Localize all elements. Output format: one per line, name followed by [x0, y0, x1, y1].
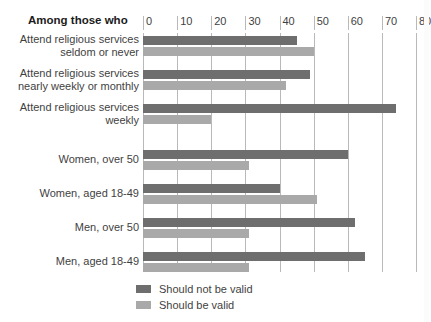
- category-label: Men, over 50: [3, 221, 139, 235]
- bar-should-not-be-valid: [143, 218, 355, 227]
- legend-swatch-icon: [136, 285, 151, 293]
- page-title: Among those who: [28, 14, 128, 26]
- category-label-line: Attend religious services: [3, 101, 139, 115]
- bar-should-be-valid: [143, 195, 317, 204]
- tick-label: 20: [214, 14, 226, 28]
- bar-should-not-be-valid: [143, 184, 280, 193]
- legend-item-should_be_valid[interactable]: Should be valid: [136, 298, 253, 312]
- tick-rule: [416, 16, 417, 30]
- tick-label: 70: [385, 14, 397, 28]
- category-label: Attend religious servicesnearly weekly o…: [3, 67, 139, 94]
- tick-label: 0: [146, 14, 152, 28]
- bar-should-be-valid: [143, 229, 249, 238]
- legend: Should not be validShould be valid: [136, 282, 253, 314]
- tick-label: 50: [317, 14, 329, 28]
- category-label-line: Attend religious services: [3, 67, 139, 81]
- category-label-line: weekly: [3, 114, 139, 128]
- legend-label: Should be valid: [159, 299, 234, 312]
- category-label-line: nearly weekly or monthly: [3, 80, 139, 94]
- category-label-line: Men, over 50: [3, 221, 139, 235]
- category-label-column: Attend religious servicesseldom or never…: [0, 33, 139, 272]
- tick-label: 40: [283, 14, 295, 28]
- category-label: Men, aged 18-49: [3, 255, 139, 269]
- plot-area: [143, 33, 416, 272]
- category-label: Women, aged 18-49: [3, 187, 139, 201]
- bar-should-be-valid: [143, 81, 286, 90]
- category-label-line: seldom or never: [3, 46, 139, 60]
- bar-should-not-be-valid: [143, 252, 365, 261]
- tick-rule: [143, 16, 144, 30]
- bar-should-not-be-valid: [143, 36, 297, 45]
- gridline-80: [416, 33, 417, 272]
- bar-should-be-valid: [143, 115, 211, 124]
- category-label-line: Men, aged 18-49: [3, 255, 139, 269]
- tick-rule: [314, 16, 315, 30]
- bar-should-not-be-valid: [143, 70, 310, 79]
- bar-should-be-valid: [143, 47, 314, 56]
- tick-label: 10: [180, 14, 192, 28]
- x-axis-tick-labels: 01020304050607080: [143, 14, 429, 30]
- category-label-line: Women, over 50: [3, 153, 139, 167]
- tick-rule: [177, 16, 178, 30]
- legend-label: Should not be valid: [159, 283, 253, 296]
- tick-label: 30: [248, 14, 260, 28]
- legend-swatch-icon: [136, 301, 151, 309]
- tick-rule: [211, 16, 212, 30]
- bar-should-be-valid: [143, 161, 249, 170]
- tick-rule: [382, 16, 383, 30]
- gridline-60: [348, 33, 349, 272]
- tick-rule: [348, 16, 349, 30]
- bar-should-be-valid: [143, 263, 249, 272]
- legend-item-should_not_be_valid[interactable]: Should not be valid: [136, 282, 253, 296]
- bar-should-not-be-valid: [143, 104, 396, 113]
- category-label-line: Women, aged 18-49: [3, 187, 139, 201]
- gridline-70: [382, 33, 383, 272]
- tick-rule: [280, 16, 281, 30]
- scan-edge-artifact: [424, 0, 429, 322]
- tick-label: 60: [351, 14, 363, 28]
- bar-should-not-be-valid: [143, 150, 348, 159]
- category-label: Women, over 50: [3, 153, 139, 167]
- category-label: Attend religious servicesseldom or never: [3, 33, 139, 60]
- category-label: Attend religious servicesweekly: [3, 101, 139, 128]
- category-label-line: Attend religious services: [3, 33, 139, 47]
- tick-rule: [245, 16, 246, 30]
